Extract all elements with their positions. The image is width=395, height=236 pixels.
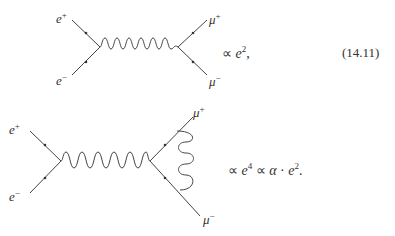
arrow-dot-mu-minus (164, 177, 167, 180)
diagram-vertex-correction (30, 117, 200, 216)
punctuation: , (246, 46, 250, 61)
particle-charge: + (15, 121, 20, 131)
particle-charge: − (15, 188, 20, 198)
arrow-dot-e-minus (85, 61, 88, 64)
muon-line-bottom (150, 161, 200, 216)
equation-number: (14.11) (342, 45, 379, 61)
expression-1: ∝ e2, (222, 45, 250, 61)
particle-charge: + (200, 104, 205, 114)
photon-loop (177, 131, 194, 190)
label-mu-plus-1: μ+ (209, 12, 221, 26)
label-e-minus-2: e− (9, 189, 20, 203)
particle-charge: + (62, 10, 67, 20)
photon-propagator (100, 38, 178, 49)
arrow-dot-e-minus (44, 177, 47, 180)
diagram-tree-level (72, 20, 207, 75)
particle-charge: + (216, 11, 221, 21)
photon-propagator (61, 152, 150, 168)
label-mu-plus-2: μ+ (193, 105, 205, 119)
arrow-dot-mu-plus (164, 144, 167, 147)
particle-charge: − (210, 211, 215, 221)
multiplication-dot: · (280, 163, 285, 178)
arrow-dot-mu-plus (192, 32, 195, 35)
particle-charge: − (216, 73, 221, 83)
label-mu-minus-1: μ− (209, 74, 221, 88)
arrow-dot-e-plus (85, 32, 88, 35)
particle-charge: − (62, 72, 67, 82)
muon-line-top (150, 117, 193, 161)
label-e-minus-1: e− (56, 73, 67, 87)
label-e-plus-1: e+ (56, 11, 67, 25)
arrow-dot-mu-minus (192, 61, 195, 64)
proportional-symbol: ∝ (228, 163, 238, 178)
punctuation: . (299, 163, 303, 178)
proportional-symbol: ∝ (222, 46, 232, 61)
label-mu-minus-2: μ− (203, 212, 215, 226)
expression-2: ∝ e4 ∝ α · e2. (228, 162, 302, 178)
proportional-symbol: ∝ (256, 163, 266, 178)
exponent: 4 (248, 161, 253, 171)
arrow-dot-e-plus (44, 144, 47, 147)
fine-structure-constant: α (269, 163, 276, 178)
label-e-plus-2: e+ (9, 122, 20, 136)
